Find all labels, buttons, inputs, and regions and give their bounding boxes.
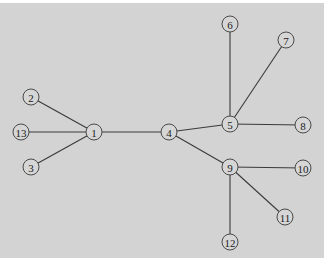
nodes-layer: 12345678910111213 xyxy=(13,16,311,250)
edge-4-5 xyxy=(169,124,230,132)
node-12: 12 xyxy=(222,234,238,250)
node-label: 7 xyxy=(283,35,289,47)
edge-9-11 xyxy=(230,167,285,217)
node-label: 4 xyxy=(166,127,172,139)
node-label: 11 xyxy=(280,212,291,224)
node-label: 9 xyxy=(227,162,233,174)
node-label: 13 xyxy=(16,127,28,139)
node-7: 7 xyxy=(278,32,294,48)
node-5: 5 xyxy=(222,116,238,132)
node-label: 1 xyxy=(91,127,97,139)
node-6: 6 xyxy=(222,16,238,32)
node-13: 13 xyxy=(13,124,29,140)
node-label: 3 xyxy=(28,162,34,174)
node-9: 9 xyxy=(222,159,238,175)
node-label: 2 xyxy=(28,92,34,104)
node-label: 5 xyxy=(227,119,233,131)
edge-9-10 xyxy=(230,167,303,168)
node-10: 10 xyxy=(295,160,311,176)
node-label: 8 xyxy=(300,120,306,132)
tree-graph: 12345678910111213 xyxy=(0,3,324,258)
edge-5-8 xyxy=(230,124,303,125)
node-3: 3 xyxy=(23,159,39,175)
node-11: 11 xyxy=(277,209,293,225)
node-2: 2 xyxy=(23,89,39,105)
node-label: 6 xyxy=(227,19,233,31)
edge-1-3 xyxy=(31,132,94,167)
edge-1-2 xyxy=(31,97,94,132)
node-8: 8 xyxy=(295,117,311,133)
tree-diagram: 12345678910111213 xyxy=(0,3,324,258)
node-label: 12 xyxy=(225,237,236,249)
edge-5-7 xyxy=(230,40,286,124)
node-label: 10 xyxy=(298,163,310,175)
node-4: 4 xyxy=(161,124,177,140)
edge-4-9 xyxy=(169,132,230,167)
node-1: 1 xyxy=(86,124,102,140)
